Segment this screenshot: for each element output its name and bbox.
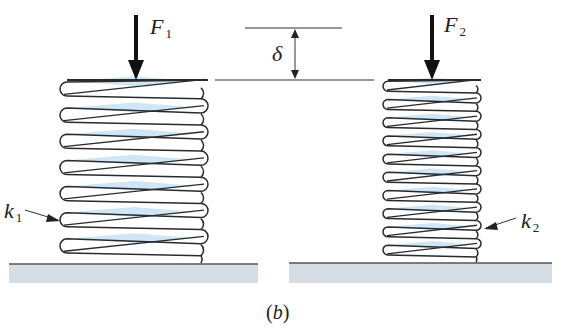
caption-letter: b [273,301,283,323]
spring-k1 [60,76,208,263]
caption-paren-open: ( [266,301,273,323]
deflection-label: δ [272,43,282,65]
force-label-f2: F2 [444,14,466,38]
force-label-f1: F1 [150,16,172,40]
force-arrow-f2 [424,15,440,80]
force-subscript: 1 [165,26,172,41]
stiffness-subscript: 1 [16,210,23,225]
stiffness-symbol: k [4,198,14,223]
stiffness-subscript: 2 [533,220,540,235]
spring-comparison-figure: F1 F2 δ k1 k2 (b) [0,0,563,334]
figure-caption: (b) [266,302,289,322]
ground-right [289,263,552,283]
stiffness-symbol: k [521,208,531,233]
spring-k2 [383,77,481,262]
force-symbol: F [444,12,457,37]
deflection-indicator [215,28,374,80]
k2-pointer-arrow [484,218,516,230]
force-arrow-f1 [128,15,144,80]
stiffness-label-k1: k1 [4,200,22,224]
force-subscript: 2 [459,24,466,39]
caption-paren-close: ) [283,301,290,323]
stiffness-label-k2: k2 [521,210,539,234]
ground-left [9,264,258,283]
k1-pointer-arrow [25,210,60,222]
force-symbol: F [150,14,163,39]
